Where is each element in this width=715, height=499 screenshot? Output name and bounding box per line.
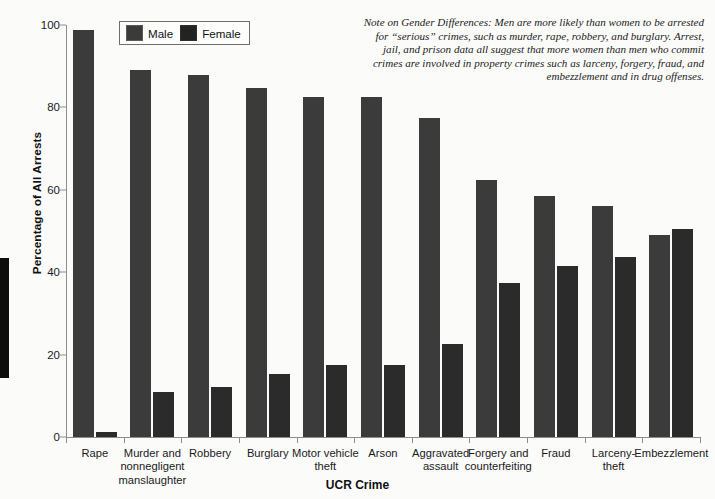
y-tick-label: 20	[0, 349, 72, 361]
plot-area	[66, 25, 700, 437]
x-tick-label-line: theft	[577, 460, 651, 473]
x-tick-label-line: nonnegligent	[116, 460, 190, 473]
bar-female	[211, 387, 232, 437]
x-tick-mark	[469, 437, 470, 443]
x-tick-mark	[181, 437, 182, 443]
y-axis-title: Percentage of All Arrests	[30, 93, 44, 313]
x-tick-mark	[412, 437, 413, 443]
bar-male	[419, 118, 440, 437]
x-tick-mark	[297, 437, 298, 443]
y-tick-label: 100	[0, 19, 72, 31]
x-tick-label-line: counterfeiting	[461, 460, 535, 473]
x-tick-mark	[527, 437, 528, 443]
bar-male	[592, 206, 613, 437]
y-tick-label: 80	[0, 101, 72, 113]
x-tick-mark	[124, 437, 125, 443]
bar-female	[615, 257, 636, 437]
x-axis-title: UCR Crime	[0, 478, 715, 492]
x-tick-label-line: Embezzlement	[634, 447, 708, 460]
y-tick-label: 0	[0, 431, 72, 443]
x-tick-mark	[354, 437, 355, 443]
x-tick-mark	[66, 437, 67, 443]
bar-female	[557, 266, 578, 437]
y-tick-label: 60	[0, 184, 72, 196]
bar-male	[649, 235, 670, 437]
x-tick-mark	[585, 437, 586, 443]
x-tick-mark	[239, 437, 240, 443]
bar-female	[269, 374, 290, 437]
x-tick-label-line: theft	[289, 460, 363, 473]
bar-male	[476, 180, 497, 438]
bar-female	[672, 229, 693, 437]
bar-female	[96, 432, 117, 437]
bar-female	[442, 344, 463, 437]
x-tick-mark	[700, 437, 701, 443]
y-tick-label: 40	[0, 266, 72, 278]
chart-page: Note on Gender Differences: Men are more…	[0, 0, 715, 499]
bar-male	[188, 75, 209, 437]
bar-male	[130, 70, 151, 437]
bar-male	[73, 30, 94, 437]
bar-male	[534, 196, 555, 437]
bar-male	[303, 97, 324, 437]
x-axis-line	[66, 437, 700, 438]
bar-male	[246, 88, 267, 437]
bar-female	[384, 365, 405, 437]
bar-male	[361, 97, 382, 437]
x-tick-label: Embezzlement	[634, 447, 708, 460]
bar-female	[326, 365, 347, 437]
bar-female	[153, 392, 174, 437]
x-tick-mark	[642, 437, 643, 443]
bar-female	[499, 283, 520, 438]
